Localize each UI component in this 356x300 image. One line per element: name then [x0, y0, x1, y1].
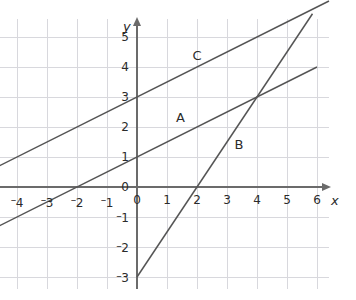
y-tick-neg3: –3	[116, 270, 129, 285]
x-tick-0: 0	[133, 194, 141, 206]
y-tick-2: 2	[121, 121, 129, 133]
y-tick-4: 4	[121, 61, 129, 73]
x-tick-2: 2	[193, 194, 201, 206]
y-tick-3: 3	[121, 91, 129, 103]
y-tick-0: 0	[121, 181, 129, 193]
x-tick-1: 1	[163, 194, 171, 206]
line-label-A: A	[176, 110, 185, 123]
x-tick-neg3: –3	[41, 194, 54, 209]
x-tick-4: 4	[253, 194, 261, 206]
y-tick-1: 1	[121, 151, 129, 163]
graph-figure: –4–3–2–10123456–3–2–1012345xyABC	[0, 0, 356, 300]
line-label-C: C	[192, 49, 201, 62]
x-tick-neg4: –4	[11, 194, 24, 209]
x-axis-name: x	[331, 194, 339, 207]
y-tick-neg1: –1	[116, 210, 129, 225]
plotted-lines	[0, 1, 329, 277]
y-axis-name: y	[123, 20, 131, 33]
coordinate-plane-svg	[0, 0, 356, 300]
grid-lines	[0, 19, 329, 289]
x-tick-neg1: –1	[101, 194, 114, 209]
line-label-B: B	[235, 137, 244, 150]
axis-lines	[0, 17, 331, 289]
x-tick-5: 5	[283, 194, 291, 206]
y-tick-neg2: –2	[116, 240, 129, 255]
x-tick-6: 6	[313, 194, 321, 206]
x-tick-neg2: –2	[71, 194, 84, 209]
x-tick-3: 3	[223, 194, 231, 206]
